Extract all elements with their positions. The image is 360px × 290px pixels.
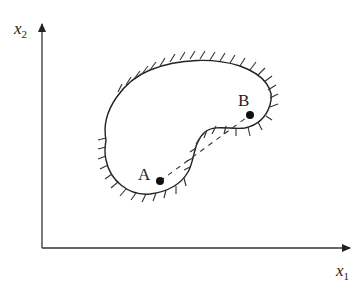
point-a <box>156 177 164 185</box>
diagram-canvas: x2 x1 <box>0 0 360 290</box>
dashed-path-a-b <box>160 115 250 181</box>
y-axis-label: x2 <box>13 19 27 40</box>
x-axis-label: x1 <box>335 261 349 282</box>
region-boundary <box>105 60 271 194</box>
point-a-label: A <box>138 165 151 184</box>
point-b-label: B <box>238 91 249 110</box>
point-b <box>246 111 254 119</box>
